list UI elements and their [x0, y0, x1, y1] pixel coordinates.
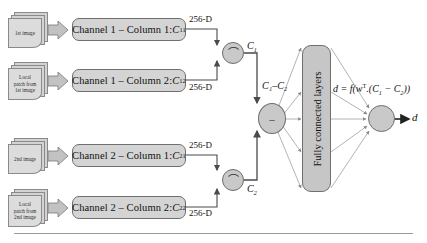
figure-canvas: 1st image Local patch from 1st image 2nd…: [0, 0, 427, 243]
edge-merge1-to-subtract: [244, 53, 257, 103]
connector-layer: [0, 0, 427, 243]
channel-box-c11: Channel 1 – Column 1: C11: [72, 18, 186, 41]
input-label-local-patch-first: Local patch from 1st image: [8, 68, 42, 100]
edge-c12-to-merge1: [186, 61, 217, 80]
merge-node-c2-glyph: ⌒: [223, 175, 243, 186]
subtract-node: –: [258, 103, 286, 134]
label-c2-subscript: 2: [254, 189, 257, 196]
fully-connected-layers-box: Fully connected layers: [302, 45, 331, 192]
output-node: [368, 105, 395, 132]
formula-close: )): [403, 83, 410, 94]
label-c1-subscript: 1: [254, 46, 257, 53]
channel-c11-symbol: C: [172, 24, 179, 35]
output-label-d: d: [412, 111, 418, 123]
edge-merge2-to-subtract: [244, 131, 257, 180]
label-c1-minus-c2: C₁–C₂: [262, 80, 287, 91]
block-arrow-in-1: [48, 21, 68, 39]
input-label-local-patch-second: Local patch from 2nd image: [8, 195, 42, 227]
merge-node-c2: ⌒: [222, 169, 244, 191]
label-c1-symbol: C: [247, 40, 254, 51]
patch-line-3: 2nd image: [14, 214, 36, 220]
input-stack-second-image: 2nd image: [8, 138, 48, 174]
figure-bottom-rule: [14, 233, 413, 234]
label-c1: C1: [247, 40, 257, 53]
formula-eq: = f(w: [338, 83, 363, 94]
channel-c21-prefix: Channel 2 – Column 1:: [72, 150, 172, 161]
channel-c11-subscript: 11: [179, 26, 185, 33]
channel-c22-symbol: C: [172, 202, 179, 213]
merge-node-c1-glyph: ⌒: [223, 48, 243, 59]
dim-label-c22: 256-D: [189, 208, 212, 218]
channel-c12-symbol: C: [172, 75, 179, 86]
edge-c21-to-merge2: [186, 155, 217, 170]
block-arrow-in-3: [48, 147, 68, 165]
formula-distance: d = f(wT.(C1 − C2)): [333, 82, 410, 96]
merge-node-c1: ⌒: [222, 42, 244, 64]
block-arrow-in-4: [48, 199, 68, 217]
channel-c21-symbol: C: [172, 150, 179, 161]
block-arrow-in-2: [48, 72, 68, 90]
input-stack-local-patch-first: Local patch from 1st image: [8, 62, 48, 100]
dim-label-c11: 256-D: [189, 14, 212, 24]
edge-c11-to-merge1: [186, 29, 217, 45]
channel-box-c12: Channel 1 – Column 2: C12: [72, 69, 186, 92]
channel-box-c21: Channel 2 – Column 1: C21: [72, 144, 186, 167]
input-stack-local-patch-second: Local patch from 2nd image: [8, 189, 48, 227]
channel-c11-prefix: Channel 1 – Column 1:: [72, 24, 172, 35]
formula-rest: .(C: [366, 83, 379, 94]
edge-c22-to-merge2: [186, 189, 217, 207]
input-stack-first-image: 1st image: [8, 12, 48, 48]
dim-label-c12: 256-D: [189, 82, 212, 92]
label-c2-symbol: C: [247, 183, 254, 194]
fully-connected-layers-label: Fully connected layers: [311, 71, 322, 166]
subtract-node-glyph: –: [259, 113, 285, 124]
channel-box-c22: Channel 2 – Column 2: C22: [72, 196, 186, 219]
input-label-first-image: 1st image: [8, 18, 42, 48]
channel-c22-subscript: 22: [179, 204, 186, 211]
edge-fc-to-output: [331, 48, 369, 188]
channel-c12-prefix: Channel 1 – Column 2:: [72, 75, 172, 86]
dim-label-c21: 256-D: [189, 140, 212, 150]
channel-c22-prefix: Channel 2 – Column 2:: [72, 202, 172, 213]
channel-c12-subscript: 12: [179, 77, 186, 84]
label-c2: C2: [247, 183, 257, 196]
patch-line-3: 1st image: [15, 87, 35, 93]
channel-c21-subscript: 21: [179, 152, 186, 159]
formula-minus: − C: [382, 83, 400, 94]
input-label-second-image: 2nd image: [8, 144, 42, 174]
